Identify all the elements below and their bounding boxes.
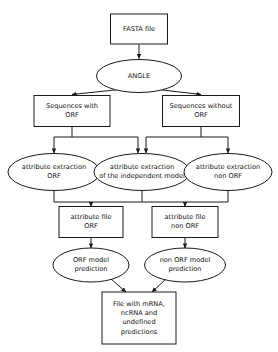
node-result-file: File with mRNA,ncRNA andundefinedpredict… [102, 292, 176, 344]
node-orf-model-prediction-label-line-2: prediction [74, 265, 107, 273]
edge-non-orf-prediction-to-result [152, 279, 166, 292]
node-sequences-without-orf-label-line-1: Sequences without [170, 102, 233, 110]
nodes-layer: FASTA fileANGLESequences withORFSequence… [8, 14, 272, 344]
node-orf-model-prediction: ORF modelprediction [53, 248, 129, 282]
node-attribute-file-orf-label-line-2: ORF [84, 222, 98, 230]
edge-with-orf-to-extraction-independent [72, 137, 138, 153]
node-orf-model-prediction-label-line-1: ORF model [73, 256, 109, 264]
node-result-file-label-line-4: predictions [121, 328, 158, 336]
node-angle: ANGLE [97, 60, 182, 93]
node-attribute-extraction-non-orf-label-line-1: attribute extraction [196, 163, 260, 171]
node-attribute-extraction-independent-model-label-line-2: of the independent model [99, 172, 185, 180]
node-attribute-extraction-non-orf: attribute extractionnon ORF [184, 154, 272, 191]
node-attribute-file-orf: attribute fileORF [59, 207, 123, 238]
node-attribute-extraction-orf-label-line-2: ORF [47, 172, 61, 180]
node-attribute-file-non-orf-label-line-1: attribute file [165, 213, 206, 221]
node-fasta-file: FASTA file [111, 14, 168, 44]
node-result-file-label-line-3: undefined [122, 318, 155, 326]
node-attribute-extraction-orf-label-line-1: attribute extraction [22, 163, 86, 171]
diagram-canvas: FASTA fileANGLESequences withORFSequence… [0, 0, 278, 352]
node-result-file-label-line-2: ncRNA and [121, 309, 157, 317]
node-attribute-file-non-orf-label-line-2: non ORF [171, 222, 199, 230]
flowchart-diagram: FASTA fileANGLESequences withORFSequence… [0, 0, 278, 352]
edge-with-orf-to-extraction-orf [54, 127, 72, 154]
node-sequences-without-orf-label-line-2: ORF [194, 111, 208, 119]
node-non-orf-model-prediction-label-line-2: prediction [168, 265, 201, 273]
node-attribute-extraction-independent-model-label-line-1: attribute extraction [110, 163, 174, 171]
node-non-orf-model-prediction: non ORF modelprediction [145, 248, 226, 282]
edge-without-orf-to-extraction-independent [146, 127, 201, 154]
node-result-file-label-line-1: File with mRNA, [113, 300, 165, 308]
node-fasta-file-label-line-1: FASTA file [123, 25, 155, 33]
edge-orf-prediction-to-result [111, 279, 126, 292]
node-attribute-extraction-independent-model: attribute extractionof the independent m… [94, 154, 190, 191]
node-attribute-extraction-non-orf-label-line-2: non ORF [214, 172, 242, 180]
node-sequences-without-orf: Sequences withoutORF [163, 96, 240, 127]
node-attribute-extraction-orf: attribute extractionORF [8, 154, 100, 191]
node-sequences-with-orf: Sequences withORF [34, 96, 110, 127]
node-angle-label-line-1: ANGLE [128, 72, 150, 80]
node-sequences-with-orf-label-line-1: Sequences with [46, 102, 98, 110]
node-non-orf-model-prediction-label-line-1: non ORF model [160, 256, 211, 264]
node-sequences-with-orf-label-line-2: ORF [65, 111, 79, 119]
edge-without-orf-to-extraction-non-orf [201, 137, 228, 153]
node-attribute-file-orf-label-line-1: attribute file [71, 213, 112, 221]
node-attribute-file-non-orf: attribute filenon ORF [152, 207, 218, 238]
